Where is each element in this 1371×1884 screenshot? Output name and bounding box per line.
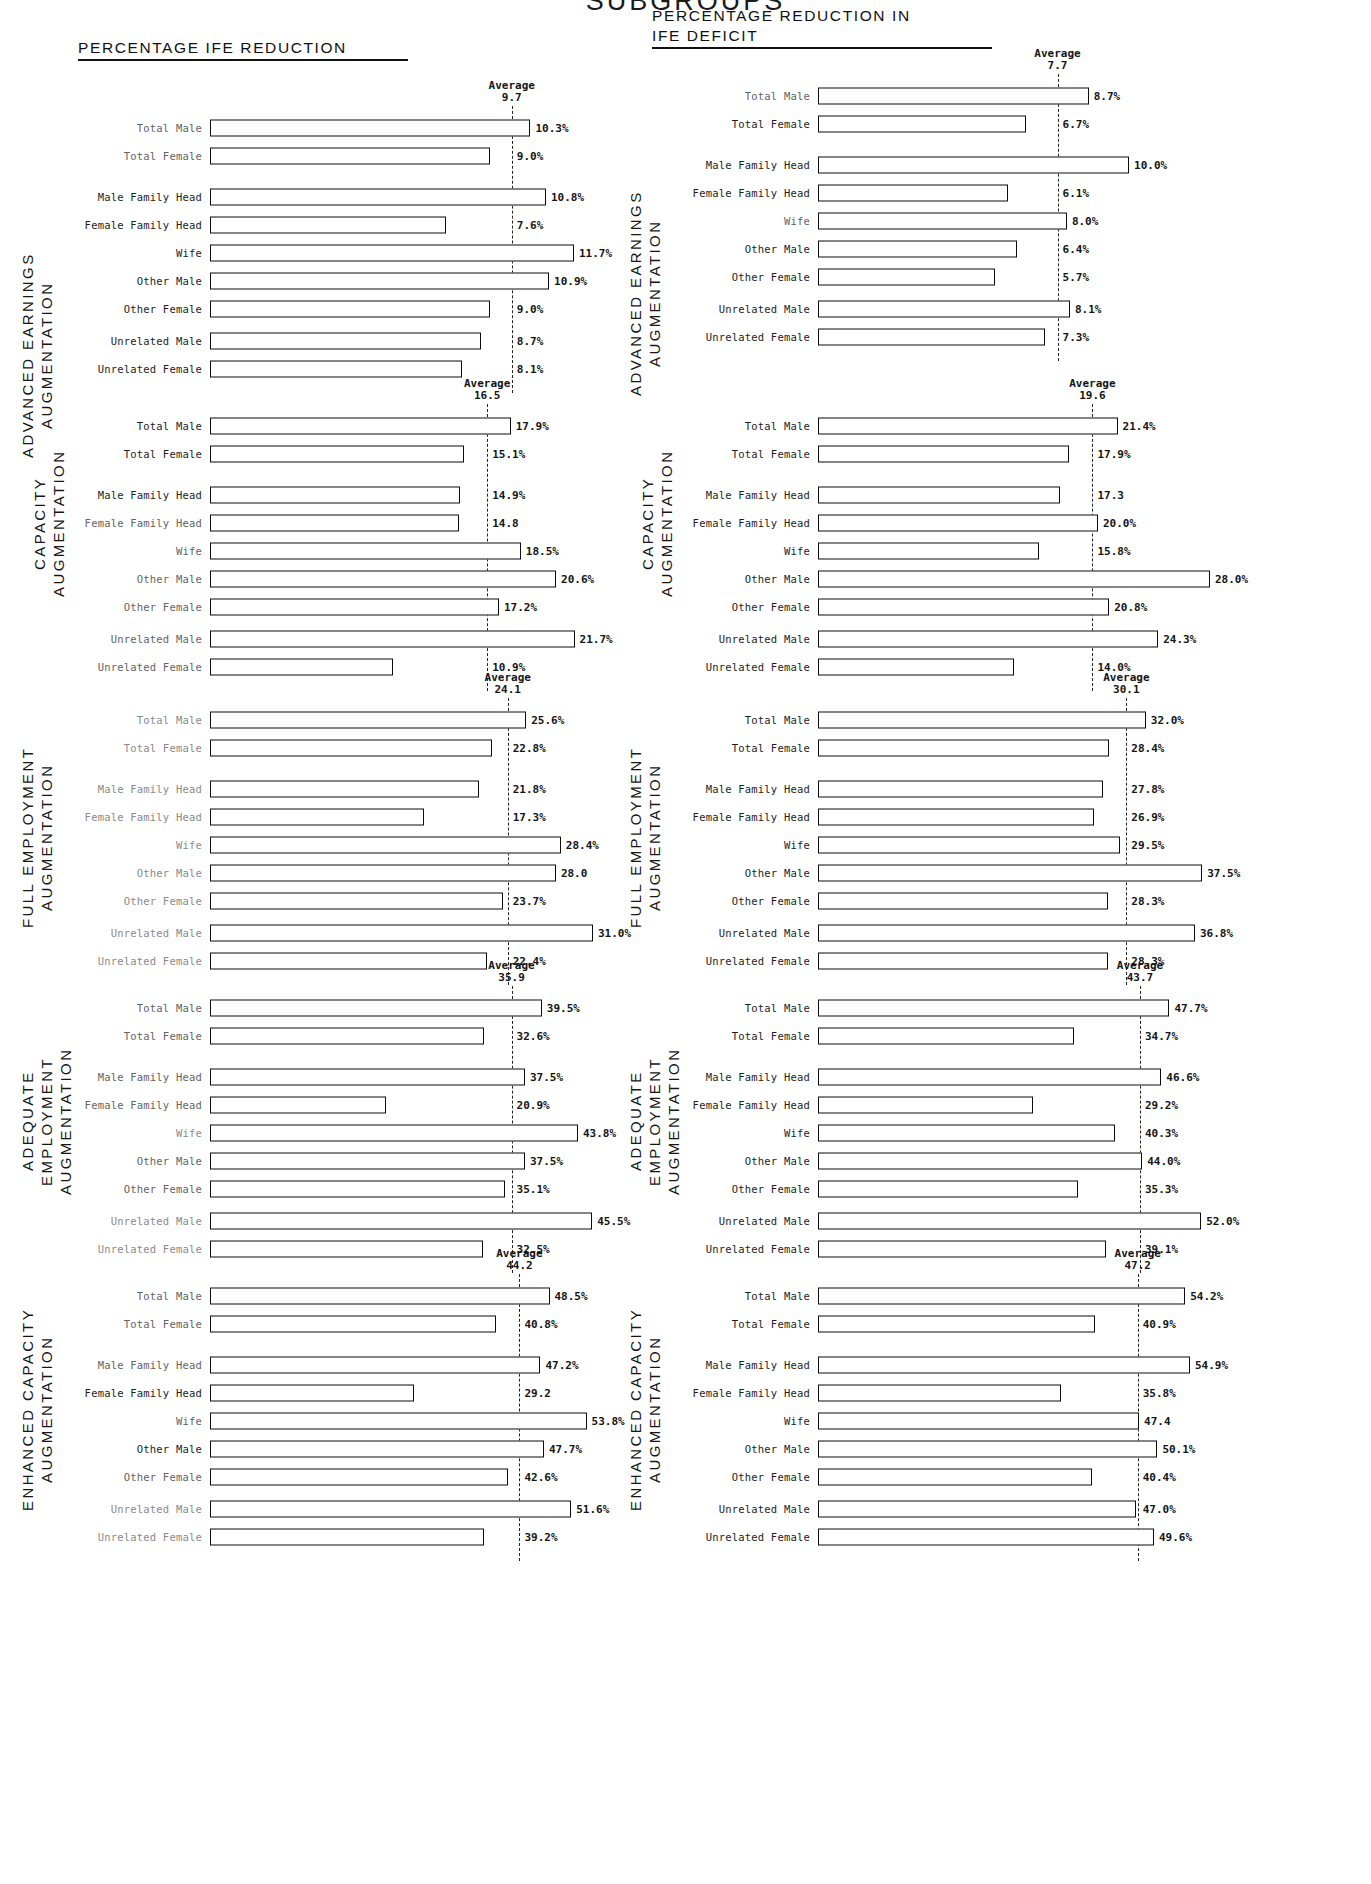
bar-category-label: Unrelated Female [706, 661, 810, 673]
bar [210, 1152, 525, 1169]
bar [818, 712, 1146, 729]
bar [818, 514, 1098, 531]
bar [210, 216, 446, 233]
bar-row: Total Female9.0% [50, 142, 630, 170]
bar-category-label: Unrelated Male [719, 1503, 810, 1515]
bar [818, 240, 1017, 257]
column-heading-left: PERCENTAGE IFE REDUCTION [78, 38, 408, 61]
bar-row: Female Family Head29.2% [658, 1091, 1238, 1119]
bar-category-label: Unrelated Female [98, 363, 202, 375]
bar-category-label: Male Family Head [98, 1071, 202, 1083]
bar [210, 514, 459, 531]
bar-row: Wife43.8% [50, 1119, 630, 1147]
bar [210, 780, 479, 797]
bar-row: Other Male47.7% [50, 1435, 630, 1463]
bar-row: Male Family Head27.8% [658, 775, 1238, 803]
average-value: 19.6 [1047, 390, 1137, 402]
bar-category-label: Male Family Head [98, 489, 202, 501]
bar-category-label: Wife [176, 1127, 202, 1139]
bar-row: Other Male50.1% [658, 1435, 1238, 1463]
bar [818, 1528, 1154, 1545]
bar-row: Other Male28.0 [50, 859, 630, 887]
average-value: 44.2 [474, 1260, 564, 1272]
bar-value-label: 52.0% [1206, 1214, 1239, 1227]
bar [210, 1288, 550, 1305]
plot-area: Average43.7Total Male47.7%Total Female34… [658, 960, 1238, 1230]
bar-category-label: Female Family Head [85, 219, 202, 231]
bar [210, 1000, 542, 1017]
bar-category-label: Unrelated Male [719, 1215, 810, 1227]
bar-category-label: Other Male [137, 867, 202, 879]
bar-value-label: 28.0% [1215, 572, 1248, 585]
bar-category-label: Unrelated Male [719, 633, 810, 645]
bar-row: Other Female35.3% [658, 1175, 1238, 1203]
chart-page: SUBGROUPS PERCENTAGE IFE REDUCTION PERCE… [0, 0, 1371, 1884]
chart-panel: CAPACITY AUGMENTATIONAverage16.5Total Ma… [0, 378, 610, 678]
bar-row: Female Family Head6.1% [658, 179, 1238, 207]
bar-value-label: 39.5% [547, 1002, 580, 1015]
bar-value-label: 40.8% [524, 1318, 557, 1331]
plot-area: Average16.5Total Male17.9%Total Female15… [50, 378, 630, 648]
average-value: 43.7 [1095, 972, 1185, 984]
bar-category-label: Male Family Head [98, 783, 202, 795]
bar [818, 88, 1089, 105]
bar-value-label: 40.3% [1145, 1126, 1178, 1139]
bar-value-label: 35.1% [517, 1182, 550, 1195]
bar-row: Unrelated Male8.7% [50, 327, 630, 355]
bar [210, 1316, 496, 1333]
bar-value-label: 5.7% [1063, 270, 1090, 283]
bar-row: Other Female35.1% [50, 1175, 630, 1203]
bar-row: Male Family Head46.6% [658, 1063, 1238, 1091]
bar-category-label: Male Family Head [706, 1359, 810, 1371]
bar [818, 446, 1069, 463]
bar-row: Other Male20.6% [50, 565, 630, 593]
bar-row: Total Female22.8% [50, 734, 630, 762]
bar [818, 1028, 1074, 1045]
bar-value-label: 44.0% [1147, 1154, 1180, 1167]
bar-category-label: Total Female [732, 742, 810, 754]
bar [210, 300, 490, 317]
bar-category-label: Male Family Head [706, 159, 810, 171]
bar-category-label: Unrelated Male [111, 927, 202, 939]
bar-value-label: 37.5% [530, 1070, 563, 1083]
bar [818, 630, 1158, 647]
plot-area: Average47.2Total Male54.2%Total Female40… [658, 1248, 1238, 1518]
bar [210, 1028, 484, 1045]
bar [818, 1500, 1136, 1517]
bar-value-label: 51.6% [576, 1502, 609, 1515]
bar-value-label: 50.1% [1162, 1442, 1195, 1455]
bar-category-label: Total Male [745, 1002, 810, 1014]
average-label: Average35.9 [467, 960, 557, 984]
average-label: Average47.2 [1093, 1248, 1183, 1272]
bar-row: Other Female42.6% [50, 1463, 630, 1491]
bar-row: Total Male32.0% [658, 706, 1238, 734]
bar-row: Wife11.7% [50, 239, 630, 267]
bar [210, 1468, 508, 1485]
bar-row: Unrelated Male45.5% [50, 1207, 630, 1235]
bar-row: Other Male6.4% [658, 235, 1238, 263]
bar-row: Female Family Head14.8 [50, 509, 630, 537]
bar [818, 924, 1195, 941]
bar-row: Total Male39.5% [50, 994, 630, 1022]
bar-row: Total Female40.9% [658, 1310, 1238, 1338]
bar-value-label: 40.4% [1143, 1470, 1176, 1483]
bar-row: Female Family Head35.8% [658, 1379, 1238, 1407]
bar-category-label: Female Family Head [693, 1387, 810, 1399]
chart-panel: ADEQUATE EMPLOYMENT AUGMENTATIONAverage3… [0, 960, 610, 1260]
bar-value-label: 28.3% [1131, 894, 1164, 907]
bar-value-label: 20.9% [517, 1098, 550, 1111]
chart-panel: ENHANCED CAPACITY AUGMENTATIONAverage44.… [0, 1248, 610, 1548]
bar-category-label: Other Female [732, 601, 810, 613]
bar [210, 332, 481, 349]
bar [210, 630, 575, 647]
bar [210, 148, 490, 165]
bar-value-label: 48.5% [555, 1290, 588, 1303]
bar-value-label: 40.9% [1143, 1318, 1176, 1331]
bar-row: Other Male10.9% [50, 267, 630, 295]
bar [818, 1356, 1190, 1373]
average-label: Average9.7 [467, 80, 557, 104]
bar-value-label: 54.9% [1195, 1358, 1228, 1371]
bar-value-label: 42.6% [524, 1470, 557, 1483]
bar-row: Wife29.5% [658, 831, 1238, 859]
bar-row: Total Female17.9% [658, 440, 1238, 468]
